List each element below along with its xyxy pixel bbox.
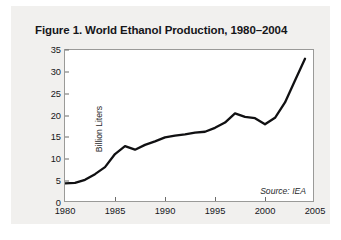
chart-plot-svg <box>65 50 315 203</box>
figure-title: Figure 1. World Ethanol Production, 1980… <box>35 24 287 36</box>
x-tick-label: 1990 <box>155 206 176 216</box>
figure-card: Figure 1. World Ethanol Production, 1980… <box>11 6 330 224</box>
x-tick-label: 1985 <box>105 206 126 216</box>
series-line-world-ethanol-production <box>65 59 305 184</box>
figure-screenshot: Figure 1. World Ethanol Production, 1980… <box>0 0 341 240</box>
y-tick-label: 10 <box>51 154 61 164</box>
x-tick-label: 2000 <box>255 206 276 216</box>
y-tick-label: 25 <box>51 89 61 99</box>
x-tick-label: 2005 <box>305 206 326 216</box>
plot-area: Billion Liters 05101520253035 1980198519… <box>64 49 314 202</box>
y-tick-label: 15 <box>51 132 61 142</box>
y-tick-label: 30 <box>51 67 61 77</box>
x-tick-label: 1980 <box>55 206 76 216</box>
y-tick-label: 35 <box>51 45 61 55</box>
y-tick-label: 5 <box>56 176 61 186</box>
source-note: Source: IEA <box>260 186 306 196</box>
y-tick-label: 20 <box>51 111 61 121</box>
x-tick-label: 1995 <box>205 206 226 216</box>
